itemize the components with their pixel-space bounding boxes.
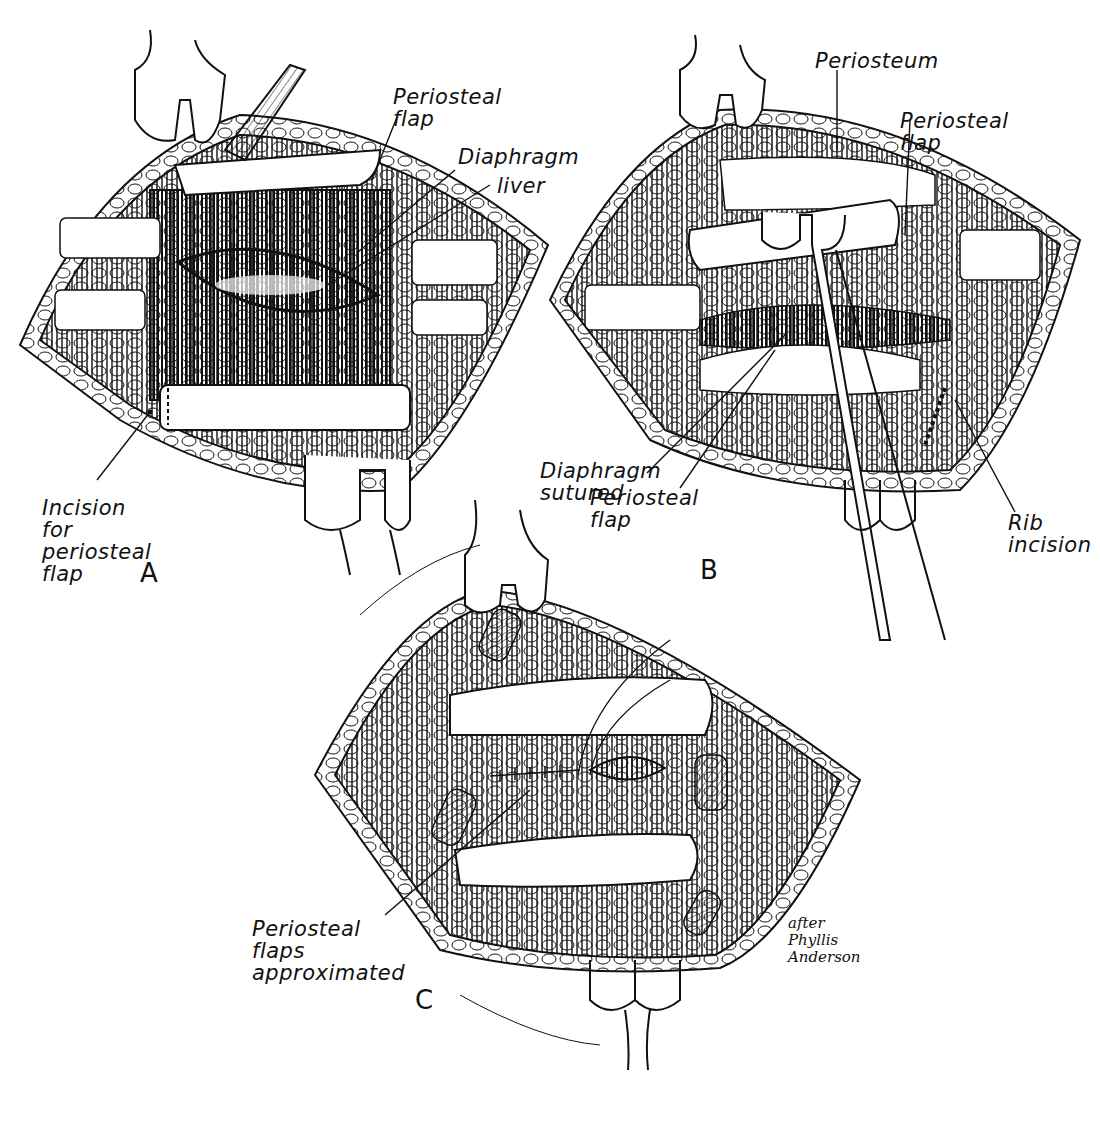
label-periosteal-flap-b-bottom: Periosteal flap [590, 487, 699, 531]
label-periosteum-b: Periosteum [815, 50, 939, 72]
panel-letter-b: B [700, 555, 718, 585]
label-rib-incision: Rib incision [1008, 512, 1091, 556]
label-periosteal-flaps-approximated: Periosteal flaps approximated [252, 918, 405, 984]
label-periosteal-flap-b-top: Periosteal flap [900, 110, 1009, 154]
label-diaphragm-a: Diaphragm [458, 146, 579, 168]
label-liver-a: liver [497, 175, 545, 197]
surgical-illustration [0, 0, 1100, 1148]
label-periosteal-flap-a: Periosteal flap [393, 86, 502, 130]
panel-letter-a: A [140, 558, 158, 588]
panel-letter-c: C [415, 985, 433, 1015]
artist-credit: after Phyllis Anderson [788, 915, 861, 966]
label-incision-for-periosteal-flap: Incision for periosteal flap [42, 497, 151, 585]
